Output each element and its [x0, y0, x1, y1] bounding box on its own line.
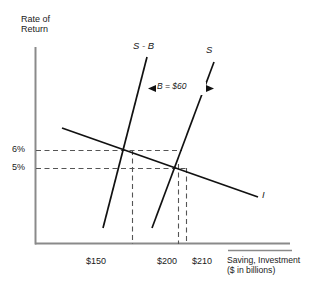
- curve-s-minus-b: [103, 57, 147, 228]
- curve-label-i: I: [262, 190, 265, 201]
- x-axis-title-line2: ($ in billions): [227, 265, 275, 275]
- borrowing-annotation-label: B = $60: [157, 82, 187, 92]
- x-axis-title: Saving, Investment($ in billions): [227, 256, 300, 275]
- y-axis-title-line1: Rate of: [21, 14, 50, 24]
- y-axis-title-line2: Return: [21, 24, 48, 34]
- x-tick-label-210: $210: [192, 256, 212, 266]
- curve-i: [62, 128, 258, 197]
- y-axis-title: Rate ofReturn: [21, 14, 50, 34]
- chart-canvas: Rate ofReturn Saving, Investment($ in bi…: [0, 0, 310, 294]
- y-tick-label-6pct: 6%: [12, 144, 25, 154]
- x-axis-title-line1: Saving, Investment: [227, 255, 300, 265]
- x-tick-label-150: $150: [86, 256, 106, 266]
- chart-plot-svg: [0, 0, 310, 294]
- y-tick-label-5pct: 5%: [12, 162, 25, 172]
- x-tick-label-200: $200: [157, 256, 177, 266]
- curve-label-s: S: [206, 45, 212, 56]
- curve-label-s-minus-b: S - B: [133, 41, 154, 52]
